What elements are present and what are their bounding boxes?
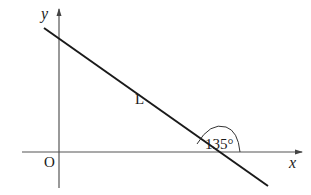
line-l	[44, 28, 268, 186]
angle-label: 135°	[205, 136, 234, 152]
diagram-canvas: y x O L 135°	[0, 0, 311, 195]
line-label: L	[135, 91, 144, 107]
x-axis-label: x	[288, 154, 296, 171]
y-axis-label: y	[39, 5, 49, 23]
origin-label: O	[44, 154, 55, 170]
